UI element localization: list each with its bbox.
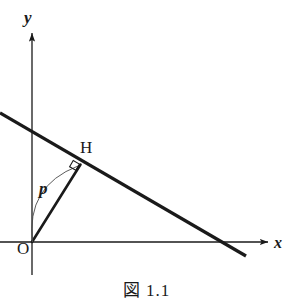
x-axis-label: x	[274, 235, 282, 251]
distance-p-label: p	[39, 180, 48, 197]
figure-container: y x O H p 図 1.1	[0, 0, 293, 302]
geometry-diagram-canvas	[0, 0, 293, 302]
origin-label: O	[17, 240, 29, 257]
point-h-label: H	[80, 139, 92, 156]
segment-origin-to-h	[32, 165, 81, 243]
figure-caption: 図 1.1	[0, 276, 293, 301]
y-axis-label: y	[24, 9, 32, 26]
